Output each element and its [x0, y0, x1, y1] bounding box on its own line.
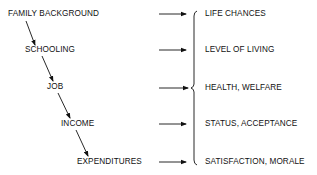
- outcome-label-satisfaction-morale: SATISFACTION, MORALE: [205, 157, 305, 167]
- arrow-job-to-income: [58, 93, 70, 118]
- outcome-label-health-welfare: HEALTH, WELFARE: [205, 83, 282, 93]
- chain-label-schooling: SCHOOLING: [25, 45, 75, 55]
- arrow-income-to-expenditures: [76, 130, 88, 156]
- outcome-label-life-chances: LIFE CHANCES: [205, 9, 266, 19]
- chain-label-income: INCOME: [61, 119, 94, 129]
- chain-label-expenditures: EXPENDITURES: [77, 157, 142, 167]
- curly-brace: [191, 11, 197, 165]
- arrow-schooling-to-job: [42, 56, 53, 81]
- chain-label-family-background: FAMILY BACKGROUND: [8, 9, 99, 19]
- chain-label-job: JOB: [47, 82, 63, 92]
- outcome-label-status-acceptance: STATUS, ACCEPTANCE: [205, 119, 297, 129]
- outcome-label-level-of-living: LEVEL OF LIVING: [205, 45, 274, 55]
- arrow-family-to-schooling: [26, 21, 35, 45]
